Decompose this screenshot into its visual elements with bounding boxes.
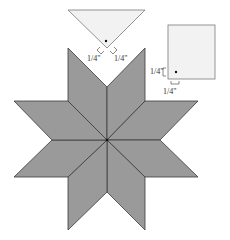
seam-dot [105,40,107,42]
square-template: 1/4" 1/4" [150,25,215,96]
quarter-inch-label-bottom: 1/4" [163,87,177,96]
quilt-star-diagram: 1/4" 1/4" 1/4" 1/4" [0,0,230,240]
center-dot [106,139,109,142]
quarter-inch-label-right: 1/4" [114,54,128,63]
quarter-inch-label-left: 1/4" [87,54,101,63]
seam-bracket-bottom [171,81,179,84]
seam-dot [175,71,177,73]
seam-bracket-right [110,47,117,54]
triangle-template: 1/4" 1/4" [68,10,145,63]
seam-bracket-left [97,47,104,54]
quarter-inch-label-left: 1/4" [150,67,164,76]
